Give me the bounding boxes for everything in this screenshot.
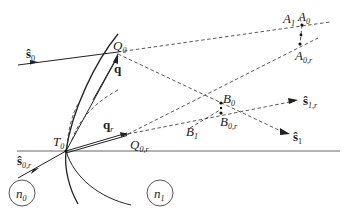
label-A1: A1 — [282, 11, 295, 28]
label-s0r: ŝ0,r — [17, 153, 32, 170]
label-s0: ŝ0 — [26, 46, 35, 63]
line-T0-Q0 — [66, 56, 118, 151]
label-n1: n1 — [154, 186, 165, 203]
label-qr: qr — [103, 117, 114, 134]
vector-qr-line1 — [66, 133, 127, 151]
dashed-Q0r-s1r — [128, 101, 295, 134]
point-B-mid — [220, 107, 222, 109]
label-B0: B0 — [223, 91, 235, 108]
label-q: q — [114, 61, 122, 76]
label-A0: A0 — [297, 9, 310, 26]
point-A-mid — [300, 34, 303, 37]
label-B0r: B0,r — [220, 114, 238, 131]
refraction-diagram: n0 n1 ŝ0 ŝ0,r q qr ŝ1 ŝ1,r Q0 Q0,r T0 A1… — [0, 0, 358, 221]
label-A0r: A0,r — [294, 48, 313, 65]
label-s1r: ŝ1,r — [303, 93, 318, 110]
point-A0r — [298, 42, 301, 45]
point-T0 — [64, 149, 67, 152]
arrow-s1-icon — [280, 128, 290, 135]
label-Q0r: Q0,r — [130, 137, 149, 154]
label-n0: n0 — [16, 186, 27, 203]
label-T0: T0 — [53, 134, 64, 151]
label-s1: ŝ1 — [293, 129, 302, 146]
label-Q0: Q0 — [113, 38, 126, 55]
arrow-s0r-icon — [31, 168, 39, 174]
secondary-curve — [66, 151, 131, 205]
arrow-s1r-icon — [288, 98, 298, 104]
vector-qr-line2 — [66, 136, 127, 154]
label-B1: B1 — [186, 124, 198, 141]
